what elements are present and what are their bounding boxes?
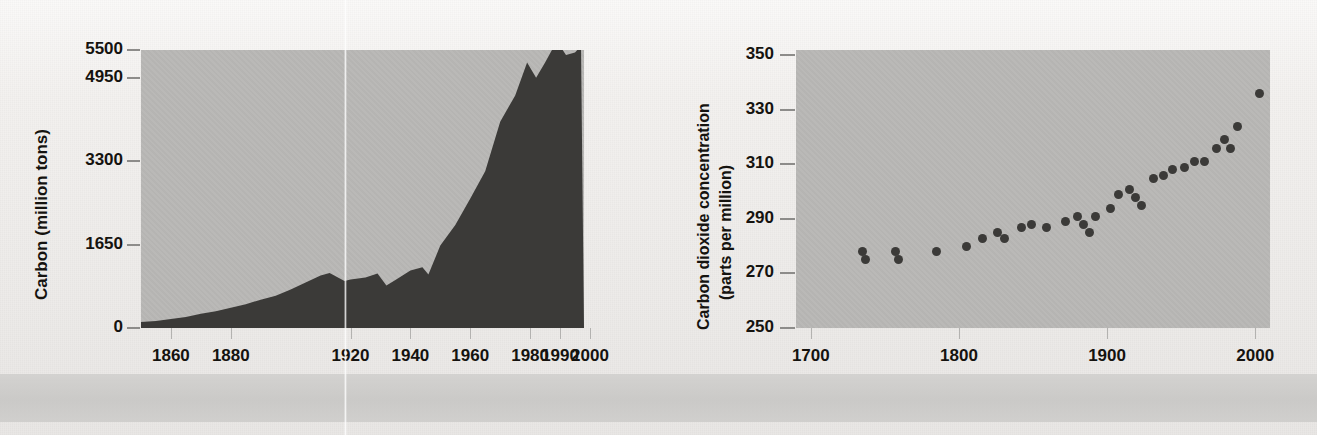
data-point (1073, 212, 1082, 221)
y-ticklabel: 1650 (51, 234, 123, 254)
x-ticklabel: 1940 (378, 346, 442, 366)
x-tickmark (530, 328, 531, 339)
x-tickmark (470, 328, 471, 339)
data-point (978, 234, 987, 243)
x-tickmark (410, 328, 411, 339)
y-axis-title-carbon: Carbon (million tons) (32, 129, 51, 300)
y-tickmark (127, 327, 140, 329)
data-point (1027, 220, 1036, 229)
data-point (1125, 185, 1134, 194)
x-tickmark (959, 328, 960, 339)
y-tickmark (780, 218, 795, 220)
x-tickmark (811, 328, 812, 339)
y-tickmark (780, 54, 795, 56)
data-point (962, 242, 971, 251)
y-ticklabel: 290 (708, 208, 774, 228)
data-point (1226, 144, 1235, 153)
y-tickmark (127, 77, 140, 79)
data-point (1000, 234, 1009, 243)
x-ticklabel: 1980 (498, 346, 562, 366)
x-ticklabel: 1800 (925, 346, 993, 366)
y-tickmark (127, 49, 140, 51)
chart-carbon-emissions: Carbon (million tons) 01650330049505500 … (0, 0, 650, 435)
x-ticklabel: 2000 (1221, 346, 1289, 366)
y-ticklabel: 270 (708, 262, 774, 282)
data-point (1085, 228, 1094, 237)
y-tickmark (127, 244, 140, 246)
x-tickmark (1107, 328, 1108, 339)
x-ticklabel: 1900 (1073, 346, 1141, 366)
x-tickmark (590, 328, 591, 339)
data-point (1137, 201, 1146, 210)
data-point (1220, 135, 1229, 144)
data-point (1017, 223, 1026, 232)
carbon-area-fill (141, 50, 584, 328)
x-tickmark (231, 328, 232, 339)
data-point (1190, 157, 1199, 166)
x-ticklabel: 1700 (777, 346, 845, 366)
data-point (1180, 163, 1189, 172)
data-point (1233, 122, 1242, 131)
y-ticklabel: 330 (708, 99, 774, 119)
y-tickmark (780, 163, 795, 165)
chart-co2-concentration: Carbon dioxide concentration (parts per … (650, 0, 1317, 435)
data-point (861, 255, 870, 264)
data-point (1212, 144, 1221, 153)
y-ticklabel: 0 (51, 317, 123, 337)
data-point (1106, 204, 1115, 213)
y-ticklabel: 310 (708, 153, 774, 173)
data-point (1114, 190, 1123, 199)
x-ticklabel: 1920 (319, 346, 383, 366)
data-point (1042, 223, 1051, 232)
y-ticklabel: 5500 (51, 39, 123, 59)
y-ticklabel: 3300 (51, 150, 123, 170)
co2-scatter-series (796, 50, 1270, 328)
x-tickmark (351, 328, 352, 339)
data-point (1061, 217, 1070, 226)
data-point (1168, 165, 1177, 174)
x-tickmark (171, 328, 172, 339)
y-ticklabel: 350 (708, 44, 774, 64)
x-ticklabel: 1960 (438, 346, 502, 366)
y-ticklabel: 4950 (51, 67, 123, 87)
x-ticklabel: 2000 (558, 346, 622, 366)
y-ticklabel: 250 (708, 317, 774, 337)
x-tickmark (1255, 328, 1256, 339)
data-point (1255, 89, 1264, 98)
y-tickmark (780, 327, 795, 329)
data-point (1159, 171, 1168, 180)
y-tickmark (127, 160, 140, 162)
data-point (894, 255, 903, 264)
x-ticklabel: 1880 (199, 346, 263, 366)
y-tickmark (780, 272, 795, 274)
carbon-area-series (141, 50, 584, 328)
data-point (1131, 193, 1140, 202)
data-point (1091, 212, 1100, 221)
x-ticklabel: 1860 (139, 346, 203, 366)
data-point (932, 247, 941, 256)
y-tickmark (780, 109, 795, 111)
data-point (1149, 174, 1158, 183)
x-tickmark (560, 328, 561, 339)
data-point (1200, 157, 1209, 166)
